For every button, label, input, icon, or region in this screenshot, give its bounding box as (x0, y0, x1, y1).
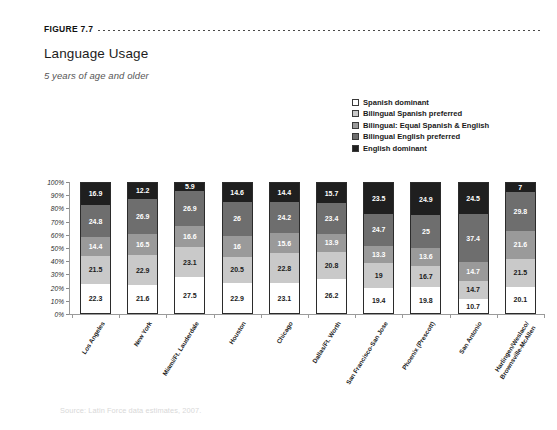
x-axis-category-line: Miami/Ft. Lauderdale (161, 320, 201, 377)
bar-segment: 15.6 (270, 233, 299, 253)
bar-segment: 13.6 (411, 248, 440, 266)
bar-segment: 16.5 (128, 234, 157, 255)
figure-number: FIGURE 7.7 (44, 24, 93, 34)
bar-segment-value: 13.6 (419, 253, 433, 260)
bar-segment: 12.2 (128, 183, 157, 199)
legend-swatch-icon (352, 110, 359, 117)
source-note: Source: Latin Force data estimates, 2007… (60, 406, 201, 415)
bar-segment: 14.6 (223, 183, 252, 202)
bar-segment: 14.4 (270, 183, 299, 202)
x-axis-tick (308, 315, 309, 318)
bar-segment: 21.6 (506, 231, 535, 259)
y-axis-tick-label: 50% (51, 245, 64, 252)
bar-group: 16.924.814.421.522.312.226.916.522.921.6… (70, 182, 545, 314)
bar-segment: 23.1 (270, 283, 299, 313)
x-axis-tick (166, 315, 167, 318)
x-axis-tick (497, 315, 498, 318)
bar-segment-value: 21.5 (513, 269, 527, 276)
bar-segment: 16.9 (81, 183, 110, 205)
bar-segment-value: 16.9 (89, 190, 103, 197)
bar-segment-value: 14.4 (277, 189, 291, 196)
legend-label: Spanish dominant (363, 98, 429, 107)
bar-segment: 26.2 (317, 279, 346, 313)
bar-segment-value: 15.7 (325, 190, 339, 197)
header-dotted-rule (98, 30, 543, 31)
x-axis-category-line: Chicago (275, 320, 295, 345)
bar-segment: 14.7 (459, 281, 488, 300)
bar-segment-value: 12.2 (136, 187, 150, 194)
bar-segment-value: 13.9 (325, 239, 339, 246)
x-axis-tick (119, 315, 120, 318)
bar-segment-value: 13.3 (372, 251, 386, 258)
bar-segment-value: 14.6 (230, 189, 244, 196)
bar-segment-value: 19.4 (372, 297, 386, 304)
x-axis-category-label: Chicago (275, 320, 295, 345)
bar-segment-value: 24.8 (89, 218, 103, 225)
legend-swatch-icon (352, 122, 359, 129)
bar-segment-value: 20.1 (513, 296, 527, 303)
bar-segment-value: 20.8 (325, 262, 339, 269)
bar-segment: 37.4 (459, 214, 488, 262)
bar-segment-value: 22.3 (89, 295, 103, 302)
x-axis-category-labels: Los AngelesNew YorkMiami/Ft. LauderdaleH… (70, 320, 545, 400)
y-axis-tick-label: 60% (51, 231, 64, 238)
stacked-bar: 15.723.413.920.826.2 (316, 182, 347, 314)
legend-item: Bilingual Spanish preferred (352, 109, 489, 118)
x-axis-tick (214, 315, 215, 318)
bar-segment-value: 23.5 (372, 195, 386, 202)
y-axis-tick-label: 90% (51, 192, 64, 199)
chart-plot-area: 0%10%20%30%40%50%60%70%80%90%100% 16.924… (40, 182, 545, 324)
bar-segment: 22.9 (223, 283, 252, 313)
stacked-bar: 23.524.713.31919.4 (363, 182, 394, 314)
page-subtitle: 5 years of age and older (44, 70, 149, 81)
x-axis-category-label: San Francisco-San Jose (344, 320, 389, 386)
bar-segment: 16.6 (175, 226, 204, 248)
legend-item: Bilingual English preferred (352, 132, 489, 141)
bar-segment: 16.7 (411, 266, 440, 288)
y-axis-tick-label: 40% (51, 258, 64, 265)
bar-segment: 20.5 (223, 257, 252, 284)
legend-item: English dominant (352, 144, 489, 153)
bar-segment: 22.8 (270, 253, 299, 283)
x-axis-category-label: Dallas/Ft. Worth (310, 320, 342, 365)
bar-segment: 21.5 (81, 256, 110, 284)
bar-segment: 15.7 (317, 183, 346, 203)
chart-legend: Spanish dominantBilingual Spanish prefer… (352, 98, 489, 153)
bar-segment: 5.9 (175, 183, 204, 191)
bar-segment-value: 15.6 (277, 240, 291, 247)
bar-segment: 24.9 (411, 183, 440, 215)
bar-segment: 20.8 (317, 252, 346, 279)
stacked-bar: 24.537.414.714.710.7 (458, 182, 489, 314)
bar-segment-value: 26.2 (325, 292, 339, 299)
bar-segment: 19 (364, 263, 393, 288)
bar-segment: 19.4 (364, 288, 393, 313)
stacked-bar: 16.924.814.421.522.3 (80, 182, 111, 314)
bar-segment-value: 25 (422, 228, 430, 235)
bar-segment-value: 23.1 (183, 259, 197, 266)
y-axis-tick-label: 20% (51, 284, 64, 291)
bar-segment: 23.1 (175, 247, 204, 277)
x-axis-tick (355, 315, 356, 318)
bar-segment: 16 (223, 236, 252, 257)
bar-segment-value: 20.5 (230, 266, 244, 273)
legend-label: Bilingual Spanish preferred (363, 109, 462, 118)
x-axis-category-line: Phoenix (Prescott) (400, 320, 436, 371)
bar-segment-value: 21.6 (513, 241, 527, 248)
bar-segment-value: 22.9 (136, 267, 150, 274)
bar-segment: 20.1 (506, 287, 535, 313)
x-axis-category-line: Los Angeles (80, 320, 107, 356)
legend-label: Bilingual English preferred (363, 132, 460, 141)
bar-segment: 26 (223, 202, 252, 236)
x-axis-category-label: Phoenix (Prescott) (400, 320, 436, 371)
bar-segment: 7 (506, 183, 535, 192)
bar-segment: 21.6 (128, 285, 157, 313)
bar-segment: 26.9 (175, 191, 204, 226)
bar-segment: 14.4 (81, 237, 110, 256)
x-axis-category-line: New York (132, 320, 154, 348)
bar-segment-value: 23.1 (277, 295, 291, 302)
x-axis-category-label: San Antonio (458, 320, 484, 355)
bar-segment-value: 26.9 (136, 213, 150, 220)
x-axis-tick (450, 315, 451, 318)
y-axis-tick-label: 30% (51, 271, 64, 278)
bar-segment-value: 24.2 (277, 214, 291, 221)
